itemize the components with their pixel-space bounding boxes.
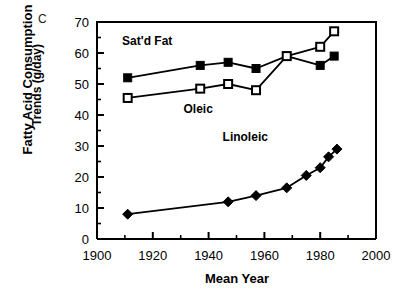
x-tick-label: 1940 [194,248,223,263]
data-point-marker [316,61,324,69]
y-tick-label: 60 [75,46,89,61]
x-tick-label: 1900 [83,248,112,263]
data-point-marker [224,80,232,88]
y-tick-label: 30 [75,139,89,154]
data-point-marker [252,86,260,94]
data-point-marker [124,94,132,102]
y-axis-ticks: 010203040506070 [75,15,104,247]
data-point-marker [124,74,132,82]
data-point-marker [223,197,233,207]
data-point-marker [316,43,324,51]
y-tick-label: 20 [75,170,89,185]
data-point-marker [282,183,292,193]
series-markers [123,27,342,219]
y-tick-label: 0 [82,232,89,247]
data-point-marker [330,27,338,35]
data-point-marker [301,170,311,180]
data-point-marker [330,52,338,60]
data-point-marker [283,52,291,60]
chart-plot-area: 190019201940196019802000 010203040506070… [0,0,408,296]
data-point-marker [123,209,133,219]
y-tick-label: 70 [75,15,89,30]
linoleic-label: Linoleic [223,130,269,144]
data-point-marker [196,61,204,69]
y-tick-label: 50 [75,77,89,92]
series-line [128,149,337,214]
x-tick-label: 1980 [306,248,335,263]
figure-panel-c: C Fatty Acid Consumption Trends (g/day) … [0,0,408,296]
data-point-marker [224,58,232,66]
data-point-marker [251,191,261,201]
data-point-marker [196,85,204,93]
y-tick-label: 40 [75,108,89,123]
y-tick-label: 10 [75,201,89,216]
x-tick-label: 2000 [362,248,391,263]
x-axis-ticks: 190019201940196019802000 [83,232,391,263]
satd-fat-label: Sat'd Fat [122,34,172,48]
oleic-label: Oleic [183,102,213,116]
data-point-marker [252,65,260,73]
x-tick-label: 1920 [138,248,167,263]
x-tick-label: 1960 [250,248,279,263]
